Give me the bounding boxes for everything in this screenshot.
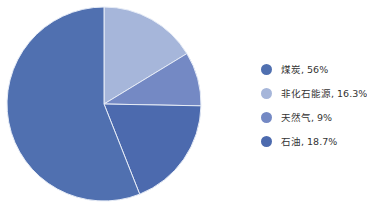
legend-label: 石油, 18.7% [281,134,337,148]
legend-item-non-fossil: 非化石能源, 16.3% [261,81,367,105]
legend-marker-icon [261,88,272,99]
legend-item-natural-gas: 天然气, 9% [261,105,367,129]
legend-label: 非化石能源, 16.3% [281,86,367,100]
legend-item-oil: 石油, 18.7% [261,129,367,153]
chart-legend: 煤炭, 56% 非化石能源, 16.3% 天然气, 9% 石油, 18.7% [261,57,367,153]
legend-marker-icon [261,136,272,147]
legend-item-coal: 煤炭, 56% [261,57,367,81]
legend-label: 煤炭, 56% [281,62,328,76]
legend-label: 天然气, 9% [281,110,332,124]
legend-marker-icon [261,64,272,75]
pie-chart [0,0,210,202]
legend-marker-icon [261,112,272,123]
